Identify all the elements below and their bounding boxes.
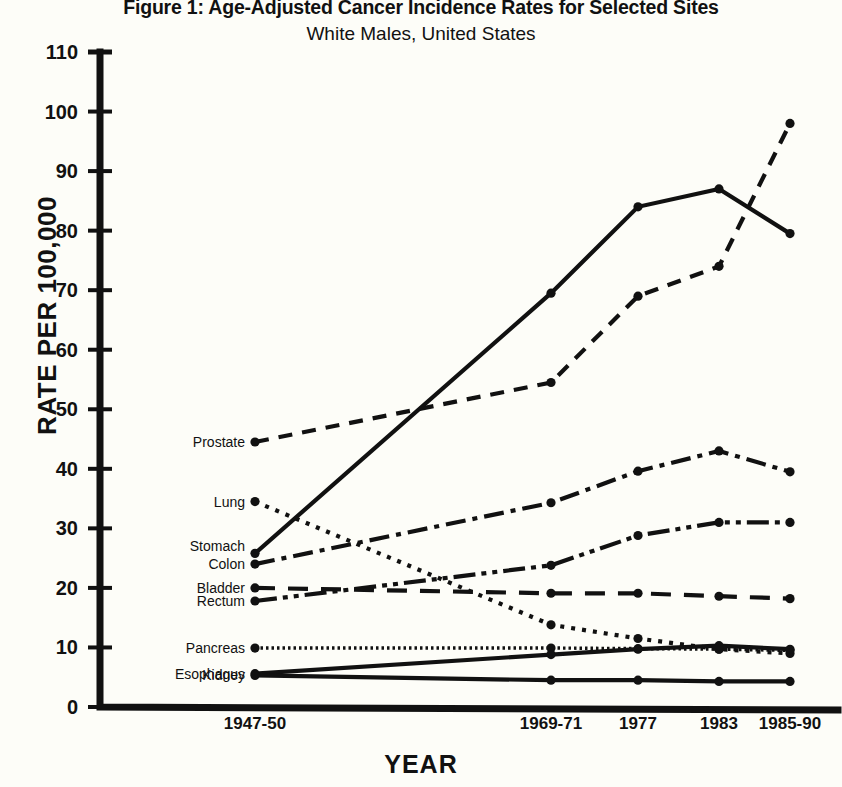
data-point-esophagus-3 [714,641,723,650]
data-point-colon-4 [785,467,794,476]
series-line-kidney [255,675,790,681]
data-point-stomach-2 [633,634,642,643]
data-point-esophagus-4 [785,645,794,654]
data-point-lung-0 [250,549,259,558]
chart-figure: Figure 1: Age-Adjusted Cancer Incidence … [0,0,842,787]
data-point-lung-1 [546,289,555,298]
axis-lines [100,52,838,710]
data-point-kidney-0 [250,671,259,680]
data-point-prostate-3 [714,262,723,271]
data-point-bladder-0 [250,596,259,605]
series-line-esophagus [255,646,790,674]
data-point-lung-3 [714,184,723,193]
data-point-esophagus-2 [633,645,642,654]
data-point-lung-4 [785,229,794,238]
data-point-prostate-1 [546,378,555,387]
data-point-rectum-1 [546,589,555,598]
data-point-lung-2 [633,202,642,211]
data-point-prostate-0 [250,437,259,446]
data-point-esophagus-1 [546,650,555,659]
data-point-colon-3 [714,446,723,455]
data-point-rectum-3 [714,592,723,601]
plot-area [0,0,842,787]
data-point-bladder-3 [714,518,723,527]
data-point-bladder-2 [633,531,642,540]
series-line-prostate [255,124,790,443]
data-point-pancreas-0 [250,643,259,652]
series-line-pancreas [255,648,790,650]
data-point-stomach-0 [250,497,259,506]
data-point-rectum-4 [785,594,794,603]
data-point-prostate-2 [633,292,642,301]
data-point-kidney-1 [546,676,555,685]
data-point-kidney-4 [785,677,794,686]
data-point-rectum-2 [633,589,642,598]
data-point-bladder-4 [785,518,794,527]
data-point-stomach-1 [546,620,555,629]
data-point-kidney-2 [633,676,642,685]
series-line-colon [255,451,790,564]
data-point-colon-1 [546,498,555,507]
data-point-colon-2 [633,467,642,476]
data-point-rectum-0 [250,583,259,592]
data-point-colon-0 [250,559,259,568]
data-point-kidney-3 [714,677,723,686]
data-point-bladder-1 [546,561,555,570]
data-point-prostate-4 [785,119,794,128]
series-line-lung [255,189,790,553]
